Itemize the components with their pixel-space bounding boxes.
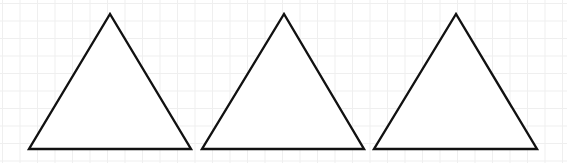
- grid-canvas: [0, 0, 567, 163]
- triangle-2: [202, 14, 364, 149]
- triangle-1: [29, 14, 191, 149]
- triangles-diagram: [0, 0, 567, 163]
- triangle-3: [374, 14, 537, 149]
